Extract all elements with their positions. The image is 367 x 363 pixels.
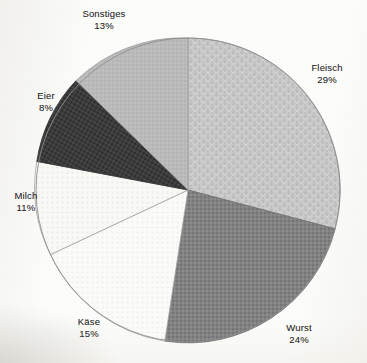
pie-label-wurst-value: 24%	[268, 334, 330, 346]
pie-label-milch: Milch 11%	[2, 190, 50, 213]
pie-label-sonstiges-name: Sonstiges	[66, 8, 142, 20]
pie-label-kaese: Käse 15%	[58, 316, 120, 339]
pie-label-milch-value: 11%	[2, 202, 50, 214]
pie-label-fleisch-value: 29%	[296, 74, 358, 86]
pie-label-wurst-name: Wurst	[268, 322, 330, 334]
pie-chart: Sonstiges 13% Fleisch 29% Wurst 24% Käse…	[0, 0, 367, 363]
pie-label-fleisch: Fleisch 29%	[296, 62, 358, 85]
pie-label-fleisch-name: Fleisch	[296, 62, 358, 74]
pie-label-eier: Eier 8%	[22, 90, 70, 113]
pie-label-kaese-name: Käse	[58, 316, 120, 328]
pie-label-eier-value: 8%	[22, 102, 70, 114]
pie-label-kaese-value: 15%	[58, 328, 120, 340]
pie-label-milch-name: Milch	[2, 190, 50, 202]
pie-label-eier-name: Eier	[22, 90, 70, 102]
pie-label-sonstiges-value: 13%	[66, 20, 142, 32]
pie-chart-svg	[0, 0, 367, 363]
pie-label-sonstiges: Sonstiges 13%	[66, 8, 142, 31]
pie-label-wurst: Wurst 24%	[268, 322, 330, 345]
